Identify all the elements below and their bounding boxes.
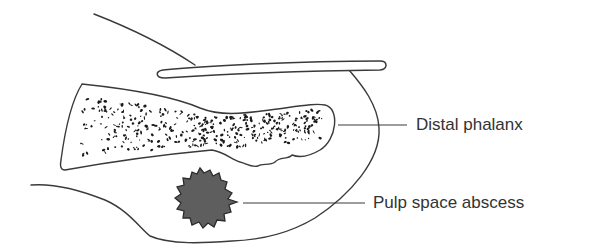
pulp-space-abscess-blob bbox=[175, 168, 237, 228]
dorsal-skin-contour bbox=[94, 14, 195, 65]
distal-phalanx-bone bbox=[60, 84, 334, 170]
pulp-space-abscess-label: Pulp space abscess bbox=[373, 194, 524, 211]
distal-phalanx-label: Distal phalanx bbox=[416, 116, 523, 133]
